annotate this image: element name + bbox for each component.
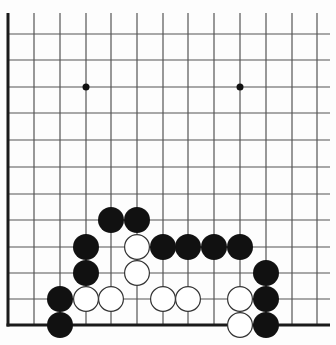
- grid-lines: [8, 13, 330, 325]
- white-stone[interactable]: [228, 287, 253, 312]
- white-stone[interactable]: [151, 287, 176, 312]
- black-stone[interactable]: [227, 234, 253, 260]
- black-stone[interactable]: [150, 234, 176, 260]
- black-stone[interactable]: [124, 207, 150, 233]
- black-stone[interactable]: [253, 286, 279, 312]
- star-point-icon: [83, 84, 90, 91]
- black-stone[interactable]: [47, 286, 73, 312]
- black-stone[interactable]: [253, 260, 279, 286]
- black-stone[interactable]: [253, 312, 279, 338]
- white-stone[interactable]: [176, 287, 201, 312]
- go-board[interactable]: [0, 0, 336, 345]
- go-board-canvas[interactable]: [0, 0, 336, 345]
- black-stone[interactable]: [98, 207, 124, 233]
- black-stone[interactable]: [175, 234, 201, 260]
- white-stone[interactable]: [125, 261, 150, 286]
- white-stone[interactable]: [74, 287, 99, 312]
- white-stone[interactable]: [125, 235, 150, 260]
- black-stone[interactable]: [73, 234, 99, 260]
- black-stone[interactable]: [201, 234, 227, 260]
- white-stone[interactable]: [99, 287, 124, 312]
- star-point-icon: [237, 84, 244, 91]
- white-stone[interactable]: [228, 313, 253, 338]
- black-stone[interactable]: [47, 312, 73, 338]
- black-stone[interactable]: [73, 260, 99, 286]
